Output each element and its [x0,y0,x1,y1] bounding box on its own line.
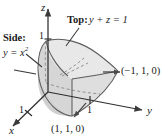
solid-shading [38,39,118,115]
side-caption-label: Side: [3,33,26,44]
side-equation-label: y = x2 [3,46,28,58]
y-tick-label: 1 [87,105,92,115]
z-axis-label: z [41,2,45,13]
top-caption-label: Top: [67,15,88,26]
x-tick-label: 1 [19,105,24,115]
y-axis-label: y [147,105,152,116]
right-vertex-point-label: (−1, 1, 0) [121,66,160,77]
math-figure-3d-solid: z y x 1 1 1 Top: y + z = 1 Side: y = x2 … [0,0,162,139]
side-label-leader-lower [14,70,36,74]
side-equation-exponent: 2 [25,45,29,53]
x-axis-label: x [9,125,14,136]
side-equation-base: y = x [3,47,25,58]
top-equation-label: y + z = 1 [89,15,128,26]
z-tick-label: 1 [39,31,44,41]
front-vertex-point-label: (1, 1, 0) [51,124,84,135]
